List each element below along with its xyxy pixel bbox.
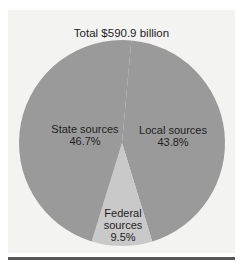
state-sources-percent: 46.7% bbox=[40, 135, 130, 147]
federal-sources-label: Federal sources 9.5% bbox=[100, 207, 146, 243]
local-sources-percent: 43.8% bbox=[128, 136, 218, 148]
federal-sources-name-line2: sources bbox=[100, 219, 146, 231]
bottom-rule bbox=[8, 257, 235, 260]
federal-sources-name-line1: Federal bbox=[100, 207, 146, 219]
state-sources-label: State sources 46.7% bbox=[40, 123, 130, 147]
local-sources-label: Local sources 43.8% bbox=[128, 124, 218, 148]
federal-sources-percent: 9.5% bbox=[100, 231, 146, 243]
state-sources-name: State sources bbox=[40, 123, 130, 135]
local-sources-name: Local sources bbox=[128, 124, 218, 136]
